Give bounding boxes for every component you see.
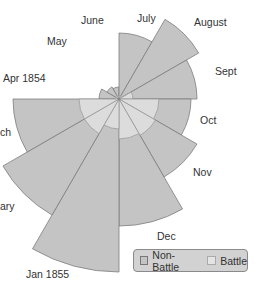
month-label: Apr 1854: [3, 72, 46, 84]
month-label: ch: [0, 126, 11, 138]
month-label: June: [81, 14, 104, 26]
month-label: Dec: [157, 230, 176, 242]
legend-item-non-battle: Non-Battle: [140, 249, 197, 273]
legend-label-non-battle: Non-Battle: [152, 249, 197, 273]
month-label: July: [137, 12, 156, 24]
legend-label-battle: Battle: [220, 255, 247, 267]
battle-swatch: [207, 256, 216, 265]
month-label: Oct: [200, 114, 216, 126]
month-label: Jan 1855: [26, 268, 69, 280]
month-label: August: [194, 16, 227, 28]
non-battle-swatch: [140, 256, 148, 265]
month-label: ary: [0, 200, 15, 212]
month-label: May: [47, 35, 68, 47]
month-label: Sept: [215, 65, 237, 77]
legend: Non-Battle Battle: [133, 249, 248, 272]
month-label: Nov: [193, 166, 212, 178]
legend-item-battle: Battle: [207, 255, 247, 267]
